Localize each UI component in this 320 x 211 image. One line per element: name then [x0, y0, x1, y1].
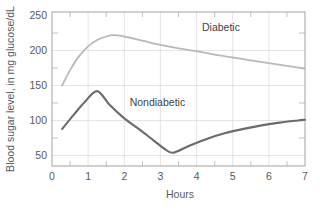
glucose-chart: 50 100 150 200 250 0 1 2 3 4 5 6 7 Hours…	[0, 0, 320, 211]
x-axis-title: Hours	[166, 188, 194, 200]
y-tick-label-100: 100	[29, 114, 47, 126]
y-tick-label-200: 200	[29, 44, 47, 56]
nondiabetic-series-label: Nondiabetic	[130, 96, 185, 108]
y-tick-label-250: 250	[29, 9, 47, 21]
x-tick-label-0: 0	[49, 170, 55, 182]
x-tick-label-4: 4	[194, 170, 200, 182]
plot-background	[52, 12, 305, 166]
x-tick-label-3: 3	[157, 170, 163, 182]
y-tick-label-150: 150	[29, 79, 47, 91]
x-tick-label-5: 5	[230, 170, 236, 182]
x-tick-label-2: 2	[121, 170, 127, 182]
y-axis-title: Blood sugar level, in mg glucose/dL	[4, 6, 16, 172]
chart-canvas: 50 100 150 200 250 0 1 2 3 4 5 6 7 Hours…	[0, 0, 320, 211]
x-tick-label-6: 6	[266, 170, 272, 182]
x-tick-label-7: 7	[302, 170, 308, 182]
x-tick-label-1: 1	[85, 170, 91, 182]
diabetic-series-label: Diabetic	[202, 21, 240, 33]
y-tick-label-50: 50	[35, 149, 47, 161]
